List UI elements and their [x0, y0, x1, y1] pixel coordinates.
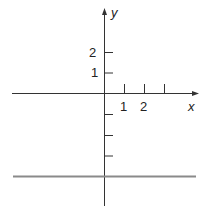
x-axis-arrow-icon	[192, 91, 199, 96]
x-tick-label-2: 2	[140, 99, 147, 114]
y-axis-arrow-icon	[102, 8, 107, 15]
x-tick-label-1: 1	[120, 99, 127, 114]
x-axis-label: x	[187, 99, 195, 114]
coordinate-plane: y x 2 1 1 2	[0, 0, 203, 206]
y-tick-label-2: 2	[89, 45, 96, 60]
y-tick-label-1: 1	[91, 65, 98, 80]
y-axis-label: y	[110, 5, 119, 20]
